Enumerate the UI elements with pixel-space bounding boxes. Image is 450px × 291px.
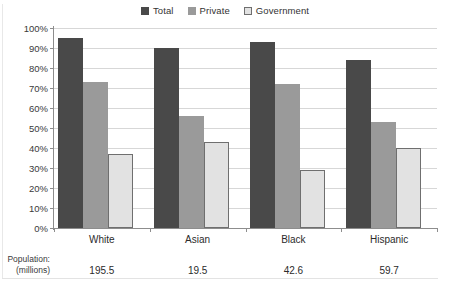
legend-swatch-private [188,7,196,15]
chart-legend: Total Private Government [0,6,450,16]
y-axis-tick-mark [50,148,54,149]
bar-asian-total [154,48,179,228]
y-axis-tick-mark [50,88,54,89]
bar-black-private [275,84,300,228]
x-axis-category-label-white: White [54,234,150,245]
legend-item-total: Total [141,6,174,16]
bar-white-private [83,82,108,228]
bar-hispanic-total [346,60,371,228]
x-axis-tick-mark [341,228,342,232]
y-axis-tick-mark [50,48,54,49]
bar-white-total [58,38,83,228]
bar-white-government [108,154,133,228]
population-caption-line2: (millions) [0,265,50,276]
bar-asian-government [204,142,229,228]
y-axis-tick-mark [50,108,54,109]
y-axis-tick-label: 40% [4,143,48,154]
y-axis-tick-label: 60% [4,103,48,114]
x-axis-category-label-black: Black [245,234,341,245]
x-axis-tick-mark [437,228,438,232]
population-caption-line1: Population: [0,254,50,265]
bar-group-asian [154,28,229,228]
population-value-asian: 19.5 [150,265,246,276]
chart-figure: Total Private Government 100%90%80%70%60… [0,0,450,291]
population-value-black: 42.6 [245,265,341,276]
legend-label-total: Total [153,6,174,16]
x-axis-category-label-hispanic: Hispanic [341,234,437,245]
y-axis-tick-label: 90% [4,43,48,54]
y-axis-tick-mark [50,168,54,169]
population-value-hispanic: 59.7 [341,265,437,276]
bar-group-hispanic [346,28,421,228]
y-axis-tick-label: 20% [4,183,48,194]
bar-group-black [250,28,325,228]
bar-group-white [58,28,133,228]
y-axis-tick-mark [50,208,54,209]
y-axis-tick-label: 10% [4,203,48,214]
x-axis-category-label-asian: Asian [150,234,246,245]
legend-item-government: Government [244,6,309,16]
legend-label-private: Private [200,6,230,16]
bar-asian-private [179,116,204,228]
x-axis-tick-mark [150,228,151,232]
y-axis-tick-label: 30% [4,163,48,174]
x-axis-tick-mark [246,228,247,232]
y-axis-tick-label: 0% [4,223,48,234]
y-axis-tick-mark [50,68,54,69]
x-axis-tick-mark-origin [54,228,55,232]
population-caption: Population:(millions) [0,254,50,276]
bar-black-government [300,170,325,228]
legend-swatch-government [244,7,252,15]
plot-area [54,28,437,228]
y-axis-tick-mark [50,128,54,129]
bar-black-total [250,42,275,228]
y-axis-tick-label: 80% [4,63,48,74]
y-axis-tick-mark [50,188,54,189]
bar-hispanic-private [371,122,396,228]
figure-border-bottom [2,278,438,279]
y-axis-tick-mark [50,28,54,29]
legend-item-private: Private [188,6,230,16]
population-value-white: 195.5 [54,265,150,276]
figure-border-left [2,4,3,279]
bar-hispanic-government [396,148,421,228]
legend-label-government: Government [256,6,309,16]
y-axis-tick-label: 70% [4,83,48,94]
y-axis-tick-label: 50% [4,123,48,134]
legend-swatch-total [141,7,149,15]
y-axis-tick-label: 100% [4,23,48,34]
